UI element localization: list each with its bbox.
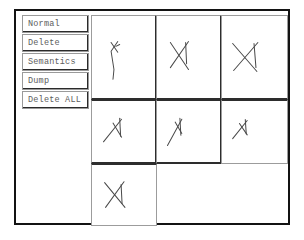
semantics-button[interactable]: Semantics	[22, 53, 89, 71]
sketch-thumbnail-2[interactable]	[156, 15, 222, 100]
sketch-ink	[157, 101, 220, 162]
normal-button-label: Normal	[28, 19, 60, 28]
dump-button-label: Dump	[28, 76, 49, 85]
sketch-thumbnail-5[interactable]	[156, 99, 222, 164]
command-button-panel: Normal Delete Semantics Dump Delete ALL	[22, 15, 89, 110]
sketch-thumbnail-grid	[91, 15, 288, 219]
delete-button-label: Delete	[28, 38, 60, 47]
sketch-thumbnail-3[interactable]	[221, 15, 288, 100]
semantics-button-label: Semantics	[28, 57, 76, 66]
delete-all-button[interactable]: Delete ALL	[22, 91, 89, 109]
dump-button[interactable]: Dump	[22, 72, 89, 90]
sketch-thumbnail-4[interactable]	[91, 99, 157, 164]
delete-all-button-label: Delete ALL	[28, 95, 81, 104]
sketch-ink	[92, 101, 155, 162]
delete-button[interactable]: Delete	[22, 34, 89, 52]
sketch-thumbnail-7[interactable]	[91, 163, 157, 226]
sketch-thumbnail-6[interactable]	[221, 99, 288, 164]
sketch-ink	[222, 101, 287, 163]
window-frame: Normal Delete Semantics Dump Delete ALL	[14, 9, 290, 225]
sketch-ink	[92, 165, 156, 225]
sketch-ink	[92, 16, 155, 98]
normal-button[interactable]: Normal	[22, 15, 89, 33]
sketch-ink	[157, 16, 220, 98]
application-window: Normal Delete Semantics Dump Delete ALL	[0, 0, 304, 240]
sketch-ink	[222, 16, 287, 98]
sketch-thumbnail-1[interactable]	[91, 15, 157, 100]
